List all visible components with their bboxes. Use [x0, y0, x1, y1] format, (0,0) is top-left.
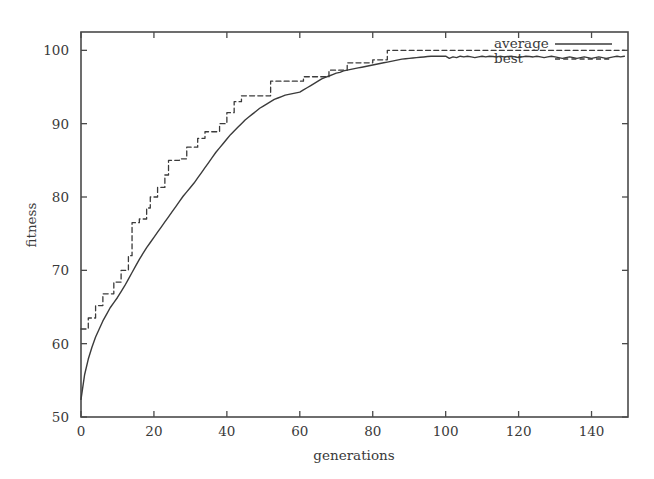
y-tick-label-50: 50	[52, 409, 69, 425]
legend-label-best: best	[494, 50, 524, 66]
x-tick-label-20: 20	[145, 423, 162, 439]
y-tick-label-60: 60	[52, 336, 69, 352]
y-axis-ticks	[81, 50, 628, 417]
y-axis-title: fitness	[23, 202, 39, 247]
x-tick-label-80: 80	[364, 423, 381, 439]
x-axis-tick-labels: 020406080100120140	[77, 423, 605, 439]
plot-canvas: 020406080100120140 5060708090100 generat…	[0, 0, 654, 479]
series-line-average	[81, 56, 624, 399]
x-tick-label-40: 40	[218, 423, 235, 439]
x-tick-label-140: 140	[579, 423, 605, 439]
x-tick-label-0: 0	[77, 423, 86, 439]
y-tick-label-80: 80	[52, 189, 69, 205]
y-tick-label-100: 100	[43, 42, 69, 58]
x-tick-label-120: 120	[506, 423, 532, 439]
x-axis-ticks	[81, 32, 592, 417]
x-tick-label-60: 60	[291, 423, 308, 439]
legend-label-average: average	[494, 35, 549, 51]
x-tick-label-100: 100	[433, 423, 459, 439]
y-tick-label-90: 90	[52, 116, 69, 132]
series-line-best	[81, 50, 624, 329]
y-tick-label-70: 70	[52, 262, 69, 278]
y-axis-tick-labels: 5060708090100	[43, 42, 69, 425]
x-axis-title: generations	[313, 447, 394, 463]
chart-figure: 020406080100120140 5060708090100 generat…	[0, 0, 654, 479]
